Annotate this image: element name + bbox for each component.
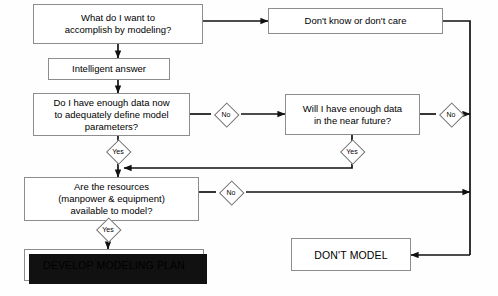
node-data-now[interactable]: Do I have enough data now to adequately … <box>33 93 190 136</box>
flowchart-canvas: What do I want to accomplish by modeling… <box>0 0 498 296</box>
decision-data-now-yes-label: Yes <box>112 148 123 155</box>
decision-data-now-yes[interactable]: Yes <box>103 140 133 162</box>
node-goal[interactable]: What do I want to accomplish by modeling… <box>33 4 203 44</box>
decision-data-future-no[interactable]: No <box>436 103 466 125</box>
decision-data-future-no-label: No <box>447 111 456 118</box>
decision-data-now-no[interactable]: No <box>211 103 241 125</box>
node-develop-modeling-plan-label: DEVELOP MODELING PLAN <box>40 259 188 271</box>
node-dont-model[interactable]: DON'T MODEL <box>291 238 411 271</box>
node-resources-label: Are the resources (manpower & equipment)… <box>55 181 168 217</box>
decision-data-now-no-label: No <box>222 111 231 118</box>
node-data-now-label: Do I have enough data now to adequately … <box>50 97 172 133</box>
decision-resources-yes[interactable]: Yes <box>93 218 123 240</box>
node-resources[interactable]: Are the resources (manpower & equipment)… <box>24 177 199 221</box>
decision-data-future-yes-label: Yes <box>346 148 357 155</box>
node-dont-know-label: Don't know or don't care <box>302 15 410 27</box>
decision-resources-yes-label: Yes <box>102 226 113 233</box>
wire-dontknow-to-trunk <box>443 21 470 255</box>
node-data-future-label: Will I have enough data in the near futu… <box>300 103 405 127</box>
wire-datafuture-yes-left <box>124 159 352 168</box>
node-intelligent-answer-label: Intelligent answer <box>69 63 149 75</box>
node-dont-model-label: DON'T MODEL <box>311 249 390 261</box>
decision-resources-no-label: No <box>227 189 236 196</box>
decision-data-future-yes[interactable]: Yes <box>337 140 367 162</box>
node-data-future[interactable]: Will I have enough data in the near futu… <box>285 94 420 135</box>
node-dont-know[interactable]: Don't know or don't care <box>268 8 443 34</box>
decision-resources-no[interactable]: No <box>216 181 246 203</box>
node-develop-modeling-plan[interactable]: DEVELOP MODELING PLAN <box>24 249 204 281</box>
node-goal-label: What do I want to accomplish by modeling… <box>62 12 175 36</box>
node-intelligent-answer[interactable]: Intelligent answer <box>48 58 170 80</box>
